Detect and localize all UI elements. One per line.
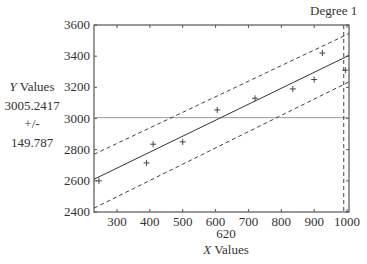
- data-point-marker: [319, 50, 325, 56]
- data-point-marker: [96, 178, 102, 184]
- confidence-bound-line: [94, 82, 349, 208]
- data-point-marker: [214, 107, 220, 113]
- y-tick-label: 2400: [50, 204, 90, 220]
- y-tick-label: 3400: [50, 48, 90, 64]
- data-point-marker: [290, 86, 296, 92]
- y-tick-label: 3600: [50, 17, 90, 33]
- x-axis-label: X Values: [176, 242, 276, 258]
- y-tick-label: 2800: [50, 142, 90, 158]
- data-point-marker: [180, 139, 186, 145]
- y-tick-label: 3000: [50, 111, 90, 127]
- plot-frame: [94, 25, 349, 212]
- y-tick-label: 2600: [50, 173, 90, 189]
- x-tick-label: 1000: [327, 214, 367, 230]
- data-point-marker: [150, 141, 156, 147]
- data-point-marker: [144, 160, 150, 166]
- data-point-marker: [311, 77, 317, 83]
- x-value: 620: [196, 226, 256, 242]
- confidence-bound-line: [94, 34, 349, 155]
- y-tick-label: 3200: [50, 79, 90, 95]
